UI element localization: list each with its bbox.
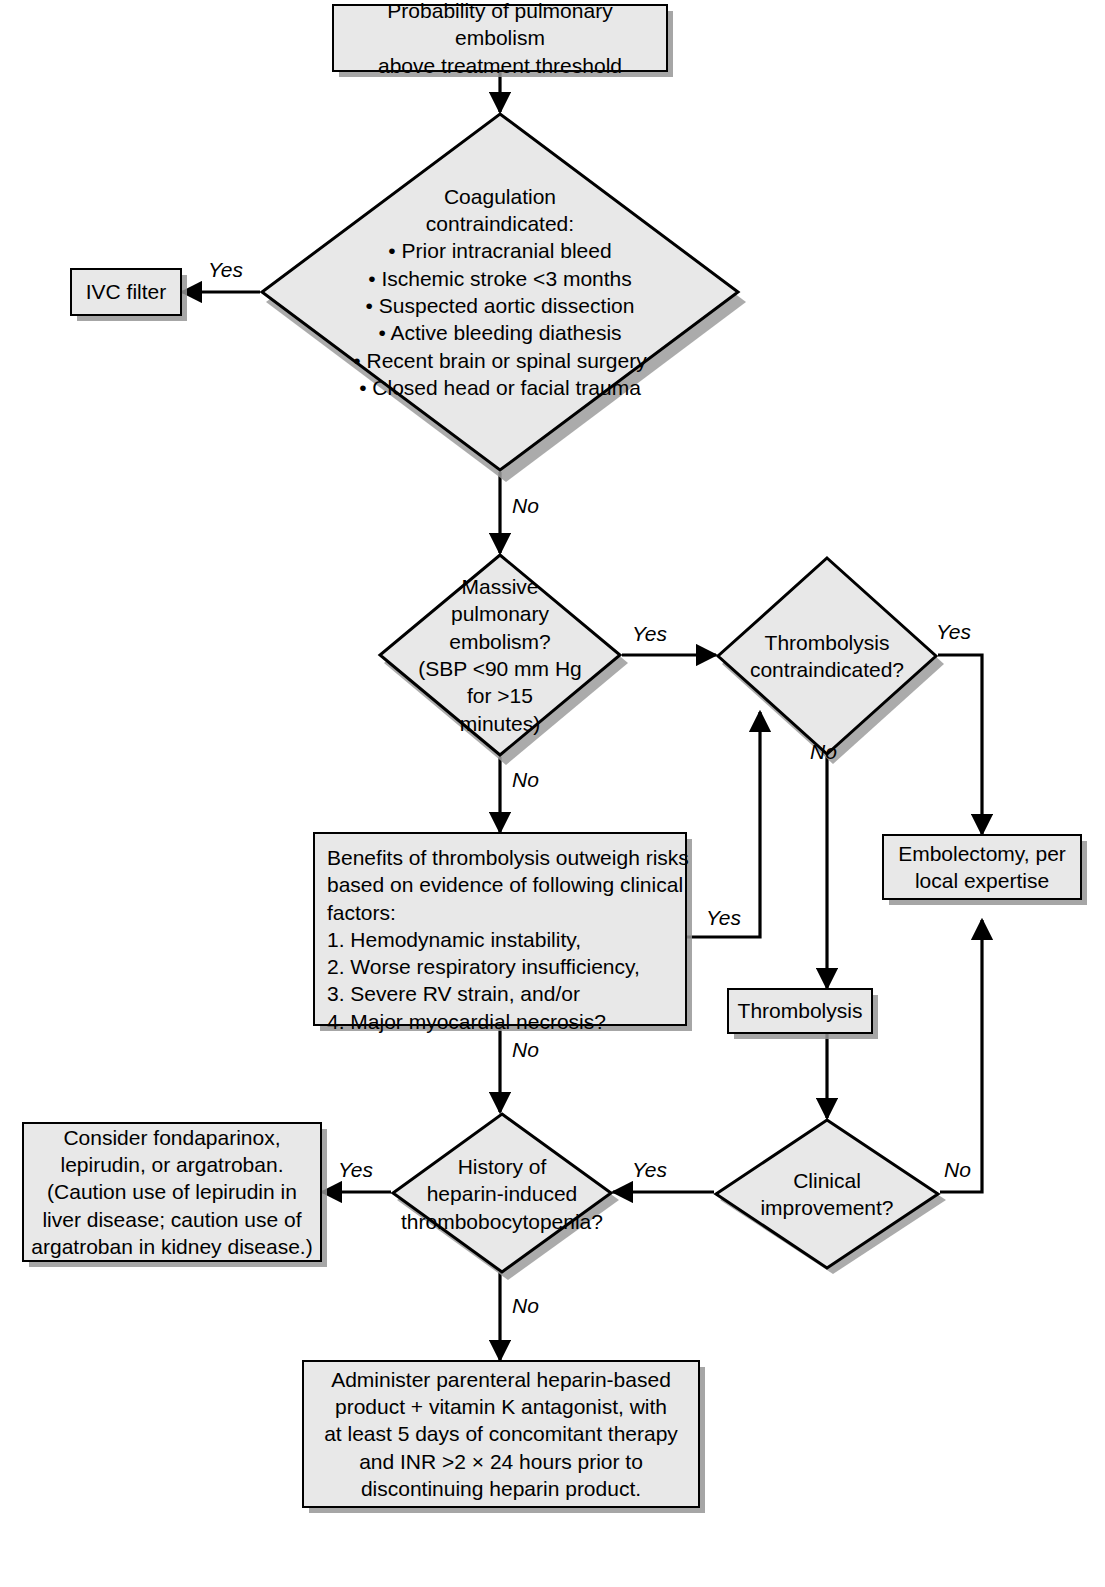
node-thrombolysis-label: Thrombolysis bbox=[738, 997, 863, 1024]
alternatives-line-1: Consider fondaparinox, bbox=[63, 1124, 280, 1151]
edge-label-coagulation-yes: Yes bbox=[208, 258, 243, 282]
edge-label-hit-no: No bbox=[512, 1294, 539, 1318]
node-embolectomy: Embolectomy, per local expertise bbox=[882, 834, 1082, 900]
heparin-line-4: and INR >2 × 24 hours prior to bbox=[359, 1448, 643, 1475]
alternatives-line-5: argatroban in kidney disease.) bbox=[31, 1233, 312, 1260]
heparin-line-3: at least 5 days of concomitant therapy bbox=[324, 1420, 678, 1447]
node-clinical-improvement-decision: Clinical improvement? bbox=[714, 1118, 940, 1270]
coagulation-diamond-shape bbox=[258, 112, 742, 472]
node-massive-pe-decision: Massive pulmonary embolism? (SBP <90 mm … bbox=[378, 553, 622, 757]
node-ivc-filter: IVC filter bbox=[70, 268, 182, 316]
edge-label-thrombcontra-no: No bbox=[810, 740, 837, 764]
edge-label-benefits-no: No bbox=[512, 1038, 539, 1062]
node-benefits-of-thrombolysis: Benefits of thrombolysis outweigh risks … bbox=[313, 832, 687, 1026]
edge-clinical-no-to-embolectomy bbox=[940, 920, 982, 1192]
flowchart-canvas: Probability of pulmonary embolism above … bbox=[0, 0, 1105, 1587]
edge-thrombcontra-yes-to-embolectomy bbox=[938, 655, 982, 834]
benefits-item-3: 3. Severe RV strain, and/or bbox=[327, 980, 580, 1007]
node-start-line1: Probability of pulmonary embolism bbox=[342, 0, 658, 52]
node-heparin-regimen: Administer parenteral heparin-based prod… bbox=[302, 1360, 700, 1508]
thrombolysis-contraindicated-diamond-shape bbox=[716, 556, 938, 756]
edge-label-coagulation-no: No bbox=[512, 494, 539, 518]
heparin-line-1: Administer parenteral heparin-based bbox=[331, 1366, 671, 1393]
benefits-item-4: 4. Major myocardial necrosis? bbox=[327, 1008, 606, 1035]
alternatives-line-2: lepirudin, or argatroban. bbox=[61, 1151, 284, 1178]
benefits-item-1: 1. Hemodynamic instability, bbox=[327, 926, 581, 953]
alternatives-line-4: liver disease; caution use of bbox=[42, 1206, 301, 1233]
heparin-line-2: product + vitamin K antagonist, with bbox=[335, 1393, 667, 1420]
edge-label-clinical-yes: Yes bbox=[632, 1158, 667, 1182]
hit-history-diamond-shape bbox=[391, 1112, 613, 1276]
edge-label-massivepe-no: No bbox=[512, 768, 539, 792]
clinical-improvement-diamond-shape bbox=[714, 1118, 940, 1270]
heparin-line-5: discontinuing heparin product. bbox=[361, 1475, 641, 1502]
benefits-item-2: 2. Worse respiratory insufficiency, bbox=[327, 953, 640, 980]
benefits-intro-3: factors: bbox=[327, 899, 396, 926]
benefits-intro-2: based on evidence of following clinical bbox=[327, 871, 683, 898]
node-embolectomy-line1: Embolectomy, per bbox=[898, 840, 1066, 867]
node-embolectomy-line2: local expertise bbox=[915, 867, 1049, 894]
benefits-intro-1: Benefits of thrombolysis outweigh risks bbox=[327, 844, 689, 871]
node-alternative-anticoagulants: Consider fondaparinox, lepirudin, or arg… bbox=[22, 1122, 322, 1262]
edge-label-benefits-yes: Yes bbox=[706, 906, 741, 930]
edge-label-hit-yes: Yes bbox=[338, 1158, 373, 1182]
edge-label-thrombcontra-yes: Yes bbox=[936, 620, 971, 644]
edge-label-clinical-no: No bbox=[944, 1158, 971, 1182]
node-thrombolysis: Thrombolysis bbox=[727, 988, 873, 1034]
node-coagulation-decision: Coagulation contraindicated: • Prior int… bbox=[258, 112, 742, 472]
edge-label-massivepe-yes: Yes bbox=[632, 622, 667, 646]
node-ivc-filter-label: IVC filter bbox=[86, 278, 167, 305]
alternatives-line-3: (Caution use of lepirudin in bbox=[47, 1178, 297, 1205]
node-hit-history-decision: History of heparin-induced thrombobocyto… bbox=[391, 1112, 613, 1276]
node-start: Probability of pulmonary embolism above … bbox=[332, 4, 668, 72]
node-start-line2: above treatment threshold bbox=[378, 52, 622, 79]
massive-pe-diamond-shape bbox=[378, 553, 622, 757]
node-thrombolysis-contraindicated-decision: Thrombolysis contraindicated? bbox=[716, 556, 938, 756]
